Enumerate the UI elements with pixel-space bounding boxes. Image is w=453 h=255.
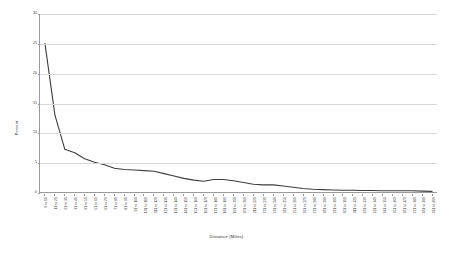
x-axis-tick-label: 201 to 210 xyxy=(244,197,248,214)
y-axis-tick-mark xyxy=(38,44,40,45)
y-axis-tick-mark xyxy=(38,14,40,15)
x-axis-tick-label: 71 to 80 xyxy=(115,197,119,210)
x-axis-tick-mark xyxy=(153,194,154,196)
x-axis-tick-mark xyxy=(352,194,353,196)
x-axis-tick-label: 61 to 70 xyxy=(105,197,109,210)
x-axis-tick-label: 351 to 360 xyxy=(394,197,398,214)
x-axis-tick-label: 241 to 250 xyxy=(284,197,288,214)
x-axis-tick-label: 171 to 180 xyxy=(215,197,219,214)
x-axis-tick-label: 251 to 260 xyxy=(294,197,298,214)
y-axis-tick-mark xyxy=(38,104,40,105)
x-axis-tick-label: 121 to 130 xyxy=(165,197,169,214)
y-axis-title: Percent xyxy=(14,120,19,135)
x-axis-tick-label: 341 to 350 xyxy=(384,197,388,214)
y-axis-tick-mark xyxy=(38,74,40,75)
x-axis-tick-label: 231 to 240 xyxy=(274,197,278,214)
x-axis-tick-label: 321 to 330 xyxy=(364,197,368,214)
y-axis-tick-label: 20 xyxy=(33,72,37,76)
gridline xyxy=(40,74,437,75)
x-axis-tick-label: 191 to 200 xyxy=(234,197,238,214)
y-axis-tick-label: 0 xyxy=(35,191,37,195)
x-axis-tick-label: 211 to 220 xyxy=(254,197,258,213)
y-axis-tick-label: 5 xyxy=(35,161,37,165)
x-axis-tick-label: 141 to 150 xyxy=(185,197,189,214)
y-axis-tick-label: 25 xyxy=(33,42,37,46)
x-axis-tick-label: 161 to 170 xyxy=(205,197,209,214)
x-axis-tick-label: 181 to 190 xyxy=(224,197,228,214)
x-axis-tick-label: 21 to 30 xyxy=(65,197,69,210)
x-axis-tick-label: 331 to 340 xyxy=(374,197,378,214)
plot-area: 051015202530 xyxy=(39,14,437,193)
x-axis-tick-label: 371 to 380 xyxy=(414,197,418,214)
y-axis-tick-mark xyxy=(38,163,40,164)
x-axis-tick-label: 301 to 310 xyxy=(344,197,348,214)
x-axis-tick-label: 261 to 270 xyxy=(304,197,308,214)
x-axis-tick-label: 81 to 90 xyxy=(125,197,129,210)
x-axis-tick-label: 91 to 100 xyxy=(135,197,139,212)
line-chart: Percent 051015202530 0 to 1011 to 2021 t… xyxy=(0,0,453,255)
x-axis-tick-label: 311 to 320 xyxy=(354,197,358,213)
x-axis-tick-mark xyxy=(253,194,254,196)
x-axis-tick-mark xyxy=(44,194,45,196)
x-axis-tick-mark xyxy=(143,194,144,196)
y-axis-tick-label: 10 xyxy=(33,132,37,136)
gridline xyxy=(40,163,437,164)
x-axis-tick-label: 271 to 280 xyxy=(314,197,318,214)
gridline xyxy=(40,104,437,105)
gridline xyxy=(40,133,437,134)
x-axis-tick-label: 131 to 140 xyxy=(175,197,179,214)
y-axis-tick-label: 30 xyxy=(33,12,37,16)
x-axis-tick-label: 101 to 110 xyxy=(145,197,149,213)
x-axis-tick-label: 51 to 60 xyxy=(95,197,99,210)
x-axis-tick-label: 381 to 390 xyxy=(423,197,427,214)
x-axis-labels: 0 to 1011 to 2021 to 3031 to 4041 to 505… xyxy=(39,194,437,232)
gridline xyxy=(40,44,437,45)
x-axis-tick-label: 361 to 370 xyxy=(404,197,408,214)
x-axis-tick-label: 111 to 120 xyxy=(155,197,159,213)
x-axis-tick-mark xyxy=(54,194,55,196)
x-axis-tick-label: 221 to 230 xyxy=(264,197,268,214)
x-axis-tick-label: 151 to 160 xyxy=(195,197,199,214)
y-axis-tick-mark xyxy=(38,133,40,134)
x-axis-tick-label: 0 to 10 xyxy=(45,197,49,208)
x-axis-tick-label: 31 to 40 xyxy=(75,197,79,210)
x-axis-tick-label: 41 to 50 xyxy=(85,197,89,210)
gridline xyxy=(40,14,437,15)
x-axis-tick-label: 291 to 300 xyxy=(334,197,338,214)
x-axis-title: Distance (Miles) xyxy=(0,234,453,239)
x-axis-tick-label: 391 to 400 xyxy=(433,197,437,214)
x-axis-tick-label: 281 to 290 xyxy=(324,197,328,214)
y-axis-tick-label: 15 xyxy=(33,102,37,106)
x-axis-tick-label: 11 to 20 xyxy=(55,197,59,209)
